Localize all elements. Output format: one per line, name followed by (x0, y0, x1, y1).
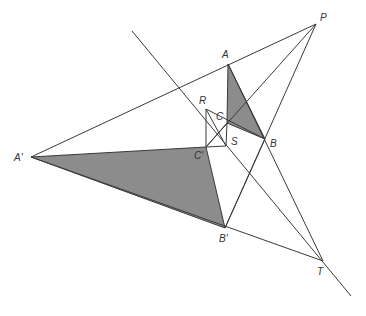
label-t: T (317, 266, 324, 277)
desargues-diagram: P A B C A' B' C' R S T (0, 0, 366, 316)
label-p: P (320, 12, 327, 23)
label-c: C (216, 111, 224, 122)
line-c-prime-s (206, 146, 226, 147)
label-a-prime: A' (13, 152, 24, 163)
line-c-s (226, 123, 227, 146)
label-c-prime: C' (194, 150, 204, 161)
line-c-c-prime (206, 123, 227, 147)
line-a-b-t (228, 64, 323, 261)
label-b: B (270, 138, 277, 149)
label-s: S (231, 136, 238, 147)
label-a: A (221, 49, 229, 60)
label-b-prime: B' (219, 233, 229, 244)
label-r: R (199, 95, 206, 106)
line-b-b-prime (225, 139, 265, 228)
